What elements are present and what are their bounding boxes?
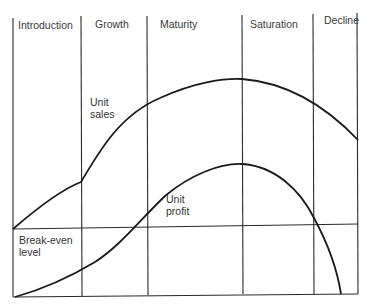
divider-introduction-growth <box>81 16 82 296</box>
break-even-line <box>13 224 358 229</box>
break-even-label-line1: Break-even <box>19 234 73 246</box>
stage-label-growth: Growth <box>95 18 129 30</box>
stage-label-introduction: Introduction <box>18 19 73 31</box>
unit-sales-label-line2: sales <box>90 108 115 120</box>
product-life-cycle-diagram: Introduction Growth Maturity Saturation … <box>0 0 369 307</box>
stage-label-saturation: Saturation <box>250 18 298 30</box>
divider-maturity-saturation <box>242 15 243 294</box>
x-axis-baseline <box>13 294 358 297</box>
unit-sales-label-line1: Unit <box>90 96 109 108</box>
stage-dividers <box>13 13 358 297</box>
stage-label-maturity: Maturity <box>160 18 198 30</box>
divider-saturation-decline <box>313 14 314 294</box>
divider-right-edge <box>357 13 358 294</box>
unit-profit-curve <box>15 164 341 297</box>
break-even-label-line2: level <box>19 246 41 258</box>
unit-profit-label-line2: profit <box>166 205 189 217</box>
stage-label-decline: Decline <box>324 14 359 26</box>
unit-profit-label-line1: Unit <box>166 193 185 205</box>
divider-growth-maturity <box>147 16 148 295</box>
